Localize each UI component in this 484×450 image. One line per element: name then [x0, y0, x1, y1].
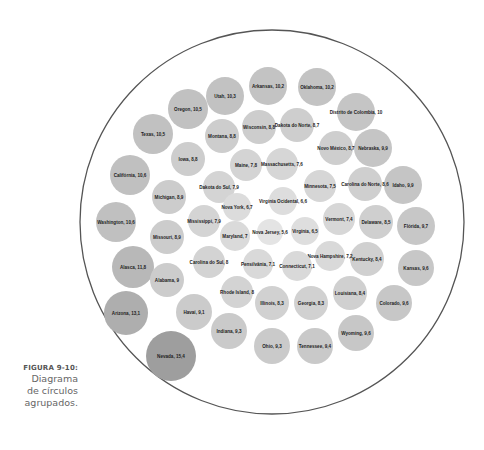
bubble-label: Montana, 8,8 — [208, 134, 236, 139]
bubble-carolina-do-norte: Carolina do Norte, 8,6 — [341, 167, 389, 201]
bubble-label: Arkansas, 10,2 — [252, 84, 285, 89]
bubble-label: Rhode Island, 8 — [220, 290, 254, 295]
bubble-rhode-island: Rhode Island, 8 — [220, 276, 254, 308]
bubble-label: Distrito de Colombia, 10 — [330, 110, 383, 115]
bubble-virginia-ocidental: Virginia Ocidental, 6,6 — [259, 187, 307, 215]
bubble-label: Arizona, 13,1 — [112, 311, 141, 316]
bubble-label: Georgia, 8,3 — [298, 301, 325, 306]
figure-caption: FIGURA 9-10: Diagrama de círculos agrupa… — [0, 364, 78, 409]
caption-line-1: Diagrama — [0, 373, 78, 385]
bubble-missouri: Missouri, 8,9 — [150, 220, 184, 254]
bubble-arkansas: Arkansas, 10,2 — [249, 67, 287, 105]
bubble-tennessee: Tennessee, 9,4 — [297, 328, 333, 364]
bubble-label: Wyoming, 9,6 — [341, 331, 371, 336]
bubble-label: Washington, 10,6 — [97, 220, 135, 225]
bubble-nevada: Nevada, 15,4 — [146, 331, 196, 381]
bubble-label: Kansas, 9,6 — [403, 266, 429, 271]
bubble-label: Texas, 10,5 — [141, 132, 166, 137]
bubble-oklahoma: Oklahoma, 10,2 — [298, 68, 336, 106]
bubble-label: Alasca, 11,8 — [120, 265, 146, 270]
bubble-wyoming: Wyoming, 9,6 — [338, 315, 374, 351]
bubble-label: Utah, 10,3 — [214, 94, 236, 99]
bubble-nebraska: Nebraska, 9,9 — [354, 129, 392, 167]
bubble-texas: Texas, 10,5 — [133, 114, 173, 154]
bubble-label: Novo México, 8,7 — [317, 146, 355, 151]
bubble-label: Nevada, 15,4 — [157, 354, 185, 359]
bubble-maryland: Maryland, 7 — [220, 221, 250, 251]
bubble-label: Massachusetts, 7,6 — [261, 162, 303, 167]
bubble-vermont: Vermont, 7,4 — [323, 203, 355, 235]
bubble-label: Califórnia, 10,6 — [114, 173, 147, 178]
figure-label: FIGURA 9-10: — [0, 364, 78, 372]
bubble-label: Michigan, 8,9 — [155, 195, 184, 200]
bubble-label: Maryland, 7 — [222, 234, 248, 239]
bubble-hava-: Havaí, 9,1 — [176, 294, 212, 330]
bubble-label: Pensilvânia, 7,1 — [241, 262, 276, 267]
bubble-alabama: Alabama, 9 — [150, 263, 184, 297]
bubble-michigan: Michigan, 8,9 — [152, 180, 186, 214]
bubble-label: Vermont, 7,4 — [325, 217, 353, 222]
bubble-idaho: Idaho, 9,9 — [384, 166, 422, 204]
bubble-label: Missouri, 8,9 — [153, 235, 181, 240]
bubble-label: Oregon, 10,5 — [174, 107, 202, 112]
bubble-label: Indiana, 9,3 — [216, 329, 241, 334]
bubble-minnesota: Minnesota, 7,5 — [304, 170, 336, 202]
bubble-arizona: Arizona, 13,1 — [104, 291, 148, 335]
bubble-label: Illinois, 8,3 — [260, 301, 284, 306]
bubble-distrito-de-colombia: Distrito de Colombia, 10 — [330, 93, 383, 131]
bubble-label: Carolina do Sul, 8 — [190, 260, 229, 265]
bubble-iowa: Iowa, 8,8 — [171, 142, 205, 176]
bubble-pensilv-nia: Pensilvânia, 7,1 — [241, 249, 276, 279]
bubble-label: Havaí, 9,1 — [183, 310, 205, 315]
bubble-label: Idaho, 9,9 — [392, 183, 414, 188]
bubble-nova-jersey: Nova Jersey, 5,6 — [252, 219, 288, 245]
bubble-label: Nova Hampshire, 7,2 — [307, 254, 353, 259]
bubble-massachusetts: Massachusetts, 7,6 — [261, 148, 303, 180]
bubble-dakota-do-norte: Dakota do Norte, 8,7 — [275, 108, 320, 142]
bubble-label: Nova Jersey, 5,6 — [252, 230, 288, 235]
bubble-illinois: Illinois, 8,3 — [255, 286, 289, 320]
bubble-label: Alabama, 9 — [155, 278, 180, 283]
bubble-ohio: Ohio, 9,3 — [254, 328, 290, 364]
bubble-alasca: Alasca, 11,8 — [112, 246, 154, 288]
bubble-label: Nova York, 6,7 — [221, 205, 253, 210]
bubble-oregon: Oregon, 10,5 — [168, 89, 208, 129]
bubble-label: Maine, 7,8 — [235, 163, 257, 168]
caption-line-3: agrupados. — [0, 397, 78, 409]
bubble-delaware: Delaware, 8,5 — [359, 205, 393, 239]
bubble-label: Dakota do Sul, 7,9 — [199, 185, 239, 190]
bubble-label: Wisconsin, 8,8 — [243, 125, 275, 130]
bubble-kansas: Kansas, 9,6 — [398, 250, 434, 286]
bubble-carolina-do-sul: Carolina do Sul, 8 — [190, 246, 229, 278]
bubble-montana: Montana, 8,8 — [205, 119, 239, 153]
bubble-label: Oklahoma, 10,2 — [300, 85, 334, 90]
bubble-label: Iowa, 8,8 — [178, 157, 198, 162]
bubble-label: Carolina do Norte, 8,6 — [341, 182, 389, 187]
bubble-label: Minnesota, 7,5 — [304, 184, 336, 189]
bubble-label: Ohio, 9,3 — [262, 344, 282, 349]
bubble-maine: Maine, 7,8 — [230, 149, 262, 181]
caption-line-2: de círculos — [0, 385, 78, 397]
bubble-mississippi: Mississippi, 7,9 — [187, 205, 221, 237]
bubble-washington: Washington, 10,6 — [96, 202, 136, 242]
bubble-novo-m-xico: Novo México, 8,7 — [317, 131, 355, 165]
bubble-virg-nia: Virgínia, 6,5 — [291, 217, 319, 245]
bubble-label: Mississippi, 7,9 — [187, 219, 221, 224]
bubble-indiana: Indiana, 9,3 — [211, 313, 247, 349]
bubble-label: Tennessee, 9,4 — [299, 344, 332, 349]
bubble-utah: Utah, 10,3 — [206, 77, 244, 115]
bubble-label: Flórida, 9,7 — [404, 224, 429, 229]
bubble-fl-rida: Flórida, 9,7 — [397, 207, 435, 245]
bubble-colorado: Colorado, 9,6 — [376, 285, 412, 321]
bubble-label: Nebraska, 9,9 — [358, 146, 388, 151]
bubbles-group: Nevada, 15,4Arizona, 13,1Alasca, 11,8Was… — [96, 67, 435, 381]
bubble-georgia: Georgia, 8,3 — [294, 286, 328, 320]
bubble-label: Kentucky, 8,4 — [352, 257, 382, 262]
bubble-label: Delaware, 8,5 — [361, 220, 391, 225]
bubble-label: Dakota do Norte, 8,7 — [275, 123, 320, 128]
bubble-label: Virgínia, 6,5 — [292, 229, 318, 234]
bubble-kentucky: Kentucky, 8,4 — [350, 242, 384, 276]
bubble-louisiana: Louisiana, 8,4 — [333, 276, 367, 310]
bubble-wisconsin: Wisconsin, 8,8 — [242, 110, 276, 144]
bubble-label: Connecticut, 7,1 — [279, 264, 315, 269]
